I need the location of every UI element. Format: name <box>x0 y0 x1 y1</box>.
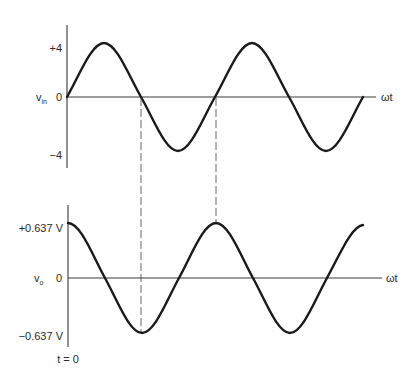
waveform-diagram: +4 0 −4 vin ωt +0.637 V 0 −0.637 V vo ωt… <box>0 0 418 386</box>
input-signal-label: vin <box>36 91 47 105</box>
input-tick-neg: −4 <box>49 149 62 161</box>
time-origin-label: t = 0 <box>57 353 79 365</box>
output-tick-zero: 0 <box>56 272 62 284</box>
input-plot: +4 0 −4 vin ωt <box>36 25 393 168</box>
input-x-axis-label: ωt <box>381 91 393 103</box>
output-signal-label: vo <box>34 272 44 286</box>
input-tick-zero: 0 <box>56 91 62 103</box>
output-tick-neg: −0.637 V <box>19 330 64 342</box>
output-plot: +0.637 V 0 −0.637 V vo ωt t = 0 <box>19 205 398 365</box>
output-x-axis-label: ωt <box>386 272 398 284</box>
output-tick-pos: +0.637 V <box>19 222 64 234</box>
input-tick-pos: +4 <box>49 42 62 54</box>
